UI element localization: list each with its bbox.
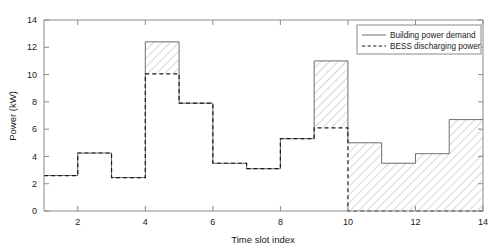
x-tick-label: 10 [343, 217, 353, 227]
hatch-segment [415, 154, 449, 211]
chart-legend[interactable]: Building power demand BESS discharging p… [357, 25, 481, 54]
x-tick-label: 8 [278, 217, 283, 227]
y-tick-label: 4 [32, 152, 37, 162]
legend-label-bess: BESS discharging power [390, 42, 481, 51]
x-tick-label: 12 [410, 217, 420, 227]
hatch-segment [449, 120, 483, 211]
hatch-segment [145, 42, 179, 74]
legend-label-demand: Building power demand [390, 31, 476, 40]
x-axis-title: Time slot index [231, 234, 295, 245]
x-tick-label: 14 [478, 217, 488, 227]
y-tick-label: 6 [32, 124, 37, 134]
hatch-segment [382, 163, 416, 211]
y-tick-label: 2 [32, 179, 37, 189]
x-tick-label: 2 [75, 217, 80, 227]
chart-container: 024681012142468101214 Power (kW) Time sl… [0, 0, 501, 251]
x-tick-label: 6 [210, 217, 215, 227]
hatch-segment [314, 61, 348, 128]
hatch-segment [348, 143, 382, 211]
power-step-chart: 024681012142468101214 Power (kW) Time sl… [0, 0, 501, 251]
x-tick-label: 4 [143, 217, 148, 227]
y-tick-label: 14 [27, 15, 37, 25]
y-tick-label: 12 [27, 42, 37, 52]
y-tick-label: 10 [27, 70, 37, 80]
y-axis-title: Power (kW) [7, 91, 18, 141]
y-tick-label: 8 [32, 97, 37, 107]
y-tick-label: 0 [32, 206, 37, 216]
